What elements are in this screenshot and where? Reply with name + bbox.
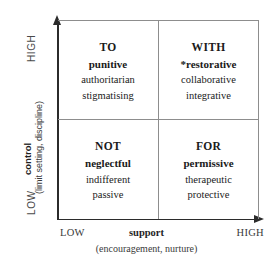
y-axis-tick-low: LOW — [26, 190, 37, 215]
quadrant-not-item-1: indifferent — [86, 172, 130, 188]
quadrant-for-subheading: permissive — [183, 155, 233, 171]
x-axis-subtitle: (encouragement, nurture) — [0, 243, 273, 254]
quadrant-for-heading: FOR — [196, 138, 221, 155]
quadrant-grid: TO punitive authoritarian stigmatising W… — [58, 20, 259, 219]
quadrant-to: TO punitive authoritarian stigmatising — [58, 21, 158, 120]
quadrant-for-item-2: protective — [188, 187, 230, 203]
y-axis-subtitle: (limit setting, discipline) — [34, 101, 44, 194]
quadrant-not-subheading: neglectful — [85, 155, 131, 171]
x-axis-title: support — [0, 227, 273, 238]
quadrant-not-heading: NOT — [95, 138, 121, 155]
quadrant-for-item-1: therapeutic — [185, 172, 232, 188]
quadrant-with-subheading: *restorative — [181, 56, 237, 72]
quadrant-for: FOR permissive therapeutic protective — [158, 120, 258, 219]
quadrant-to-item-2: stigmatising — [82, 88, 133, 104]
quadrant-with-heading: WITH — [192, 39, 226, 56]
quadrant-not-item-2: passive — [93, 187, 124, 203]
quadrant-to-subheading: punitive — [89, 56, 128, 72]
quadrant-to-item-1: authoritarian — [81, 72, 135, 88]
quadrant-with: WITH *restorative collaborative integrat… — [158, 21, 258, 120]
quadrant-with-item-1: collaborative — [181, 72, 236, 88]
y-axis-title: control — [22, 143, 33, 175]
quadrant-not: NOT neglectful indifferent passive — [58, 120, 158, 219]
quadrant-with-item-2: integrative — [186, 88, 231, 104]
social-discipline-window-diagram: HIGH LOW control (limit setting, discipl… — [0, 0, 273, 268]
y-axis-tick-high: HIGH — [26, 35, 37, 62]
quadrant-to-heading: TO — [99, 39, 116, 56]
